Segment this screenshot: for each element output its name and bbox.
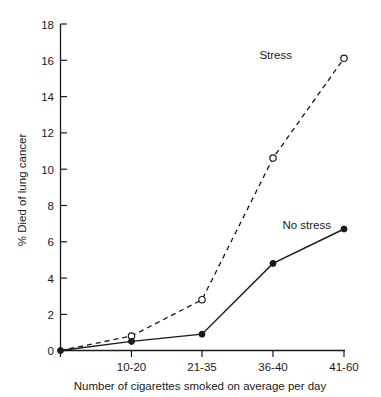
- x-tick-label: 10-20: [117, 361, 146, 373]
- x-axis-ticks: [61, 351, 345, 358]
- x-axis-title: Number of cigarettes smoked on average p…: [74, 380, 327, 392]
- series-stress-line: [61, 58, 345, 350]
- y-axis-tick-labels: 18 16 14 12 10 8 6 4 2 0: [41, 19, 54, 358]
- y-tick-label: 4: [48, 273, 55, 285]
- x-tick-label: 21-35: [187, 361, 216, 373]
- series-label-stress: Stress: [259, 49, 292, 61]
- series-label-no-stress: No stress: [282, 219, 331, 231]
- line-chart-svg: 18 16 14 12 10 8 6 4 2 0 10-20 21-35 36-…: [0, 0, 381, 397]
- series-stress-point: [270, 155, 276, 161]
- x-axis-tick-labels: 10-20 21-35 36-40 41-60: [117, 361, 359, 373]
- series-no-stress-point: [129, 338, 135, 344]
- y-tick-label: 0: [48, 345, 54, 357]
- y-tick-label: 2: [48, 309, 54, 321]
- y-tick-label: 12: [41, 127, 54, 139]
- series-stress-point: [341, 55, 347, 61]
- series-stress-point: [199, 297, 205, 303]
- series-no-stress-point: [341, 226, 347, 232]
- y-tick-label: 16: [41, 55, 54, 67]
- y-axis-title: % Died of lung cancer: [16, 134, 28, 247]
- series-no-stress-point: [58, 348, 64, 354]
- series-no-stress: [58, 226, 348, 354]
- y-tick-label: 14: [41, 91, 54, 103]
- series-no-stress-point: [199, 331, 205, 337]
- chart-container: 18 16 14 12 10 8 6 4 2 0 10-20 21-35 36-…: [0, 0, 381, 397]
- y-tick-label: 6: [48, 236, 54, 248]
- y-tick-label: 8: [48, 200, 54, 212]
- y-axis-ticks: [61, 24, 68, 351]
- y-tick-label: 10: [41, 164, 54, 176]
- x-tick-label: 36-40: [258, 361, 287, 373]
- y-tick-label: 18: [41, 19, 54, 31]
- series-stress: [61, 55, 348, 350]
- x-tick-label: 41-60: [329, 361, 358, 373]
- series-no-stress-point: [270, 260, 276, 266]
